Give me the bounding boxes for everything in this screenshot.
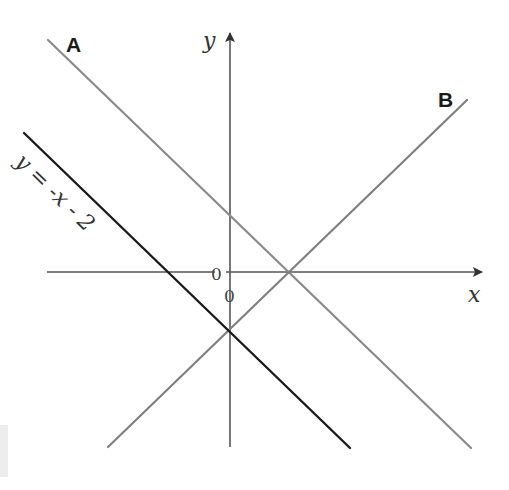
origin-label-left: 0 [211,264,222,284]
line-a: A [48,33,471,448]
line-a-label: A [66,33,81,56]
y-axis-label: y [202,28,216,53]
line-b-label: B [438,88,453,111]
x-axis-label: x [468,282,481,307]
coordinate-diagram: x y 0 0 A B y = -x - 2 [0,0,509,490]
line-given: y = -x - 2 [10,133,350,448]
y-axis: y [202,28,230,447]
origin-label-below: 0 [224,286,235,306]
x-axis: x [47,272,482,307]
